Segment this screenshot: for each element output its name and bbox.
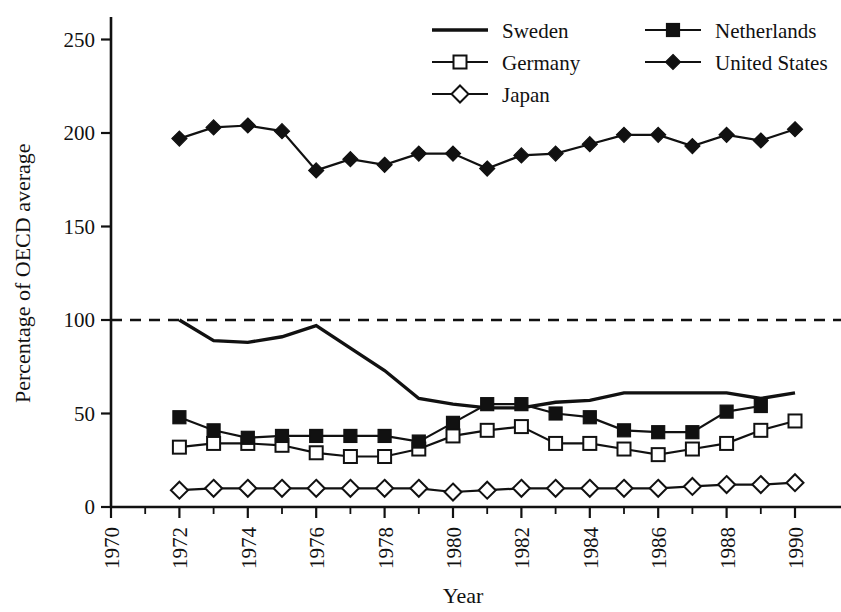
legend-label: United States [715,51,828,75]
series-layer [171,118,804,501]
data-point [718,476,735,493]
data-point [548,146,563,161]
data-point [754,400,767,413]
data-point [452,86,469,103]
y-tick-label-100: 100 [64,308,96,332]
data-point [720,405,733,418]
data-point [241,431,254,444]
x-tick-label-1974: 1974 [237,527,261,570]
data-point [310,446,323,459]
data-point [378,429,391,442]
data-point [685,139,700,154]
x-tick-label-1970: 1970 [100,527,124,569]
data-point [412,435,425,448]
data-point [583,437,596,450]
data-point [310,429,323,442]
data-point [378,450,391,463]
data-point [479,482,496,499]
data-point [445,484,462,501]
legend-item-united-states[interactable]: United States [645,51,828,75]
data-point [481,398,494,411]
x-tick-label-1972: 1972 [168,527,192,569]
data-point [789,414,802,427]
data-point [686,443,699,456]
data-point [481,424,494,437]
x-tick-label-1984: 1984 [579,527,603,570]
data-point [447,416,460,429]
data-point [207,424,220,437]
data-point [377,157,392,172]
line-chart: 0501001502002501970197219741976197819801… [0,0,841,612]
data-point [652,448,665,461]
data-point [446,146,461,161]
data-point [480,161,495,176]
data-point [206,120,221,135]
legend-layer: SwedenGermanyJapanNetherlandsUnited Stat… [432,19,828,107]
legend-label: Japan [502,83,550,107]
x-tick-label-1990: 1990 [784,527,808,569]
data-point [276,429,289,442]
data-point [618,424,631,437]
data-point [666,55,681,70]
series-path [179,320,795,408]
legend-item-japan[interactable]: Japan [432,83,550,107]
data-point [719,127,734,142]
legend-item-germany[interactable]: Germany [432,51,581,75]
data-point [752,476,769,493]
data-point [411,146,426,161]
data-point [172,131,187,146]
data-point [547,480,564,497]
series-path [179,404,760,442]
data-point [684,478,701,495]
data-point [686,426,699,439]
chart-root: 0501001502002501970197219741976197819801… [0,0,841,612]
legend-item-sweden[interactable]: Sweden [432,19,569,43]
data-point [173,411,186,424]
data-point [514,148,529,163]
data-point [788,122,803,137]
y-tick-label-50: 50 [74,402,95,426]
data-point [515,398,528,411]
data-point [239,480,256,497]
data-point [410,480,427,497]
legend-label: Sweden [502,19,569,43]
data-point [617,127,632,142]
y-tick-label-250: 250 [64,28,96,52]
data-point [753,133,768,148]
series-sweden [179,320,795,408]
data-point [720,437,733,450]
data-point [308,480,325,497]
data-point [581,480,598,497]
legend-label: Netherlands [715,19,816,43]
data-point [549,437,562,450]
data-point [616,480,633,497]
legend-item-netherlands[interactable]: Netherlands [645,19,816,43]
x-tick-label-1976: 1976 [305,527,329,569]
y-axis-title: Percentage of OECD average [10,143,35,403]
data-point [274,480,291,497]
legend-label: Germany [502,51,581,75]
data-point [344,429,357,442]
x-tick-label-1988: 1988 [716,527,740,569]
y-tick-label-200: 200 [64,121,96,145]
x-tick-label-1986: 1986 [647,527,671,569]
data-point [205,480,222,497]
data-point [173,441,186,454]
series-united-states [172,118,803,178]
data-point [651,127,666,142]
y-tick-label-150: 150 [64,215,96,239]
y-tick-label-0: 0 [85,495,96,519]
data-point [515,420,528,433]
data-point [549,407,562,420]
data-point [447,429,460,442]
data-point [171,482,188,499]
data-point [652,426,665,439]
x-tick-label-1982: 1982 [510,527,534,569]
data-point [650,480,667,497]
x-axis-title: Year [443,583,484,608]
data-point [513,480,530,497]
data-point [582,137,597,152]
data-point [376,480,393,497]
data-point [344,450,357,463]
data-point [787,474,804,491]
